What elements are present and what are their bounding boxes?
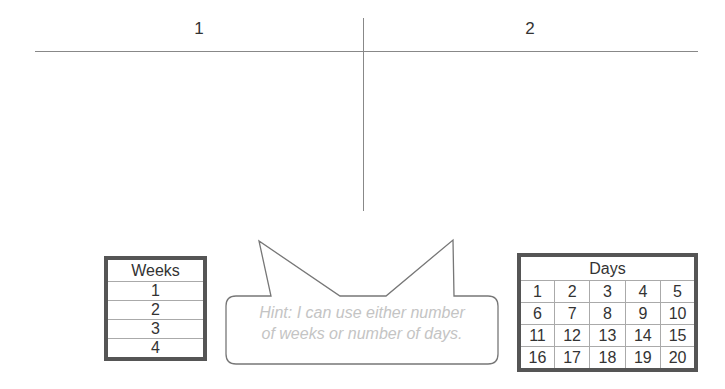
- hint-text: Hint: I can use either number of weeks o…: [226, 302, 498, 344]
- hint-line-1: Hint: I can use either number: [226, 302, 498, 323]
- hint-line-2: of weeks or number of days.: [226, 323, 498, 344]
